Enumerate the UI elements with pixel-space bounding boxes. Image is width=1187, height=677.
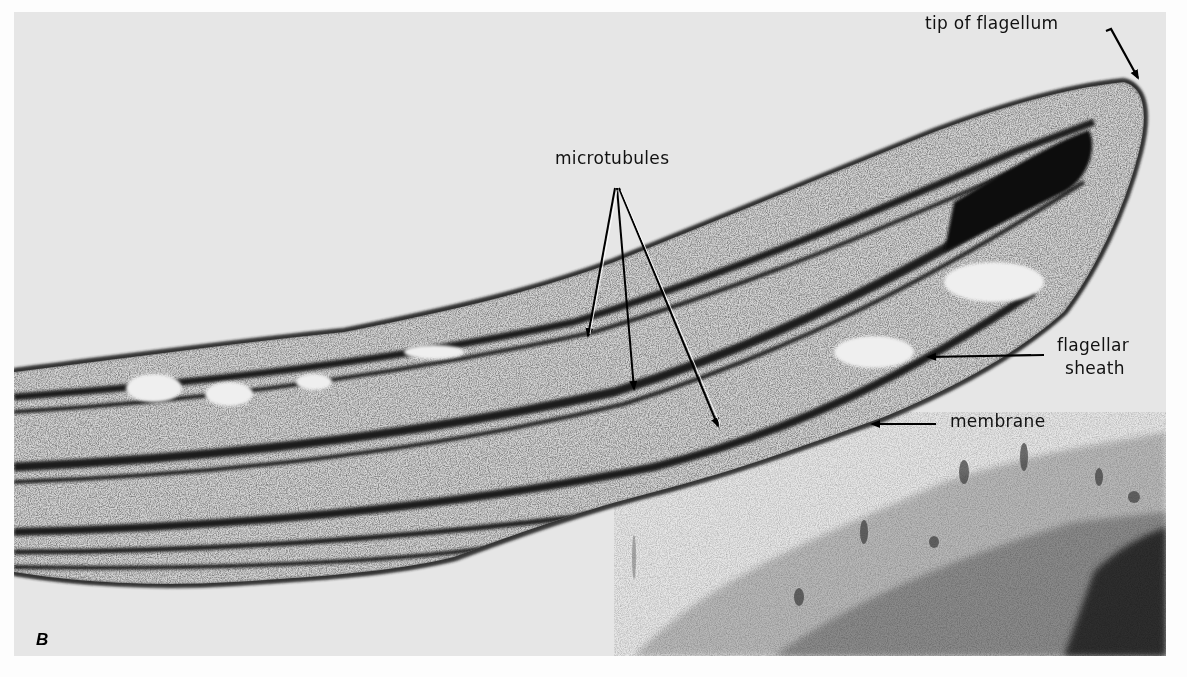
flagellum-micrograph — [14, 12, 1166, 656]
label-microtubules: microtubules — [555, 149, 669, 169]
label-tip-of-flagellum: tip of flagellum — [925, 14, 1058, 34]
label-sheath: sheath — [1065, 359, 1125, 379]
micrograph-photo: tip of flagellum microtubules flagellar … — [14, 12, 1166, 656]
label-membrane: membrane — [950, 412, 1045, 432]
panel-letter: B — [36, 630, 48, 650]
label-flagellar: flagellar — [1057, 336, 1129, 356]
